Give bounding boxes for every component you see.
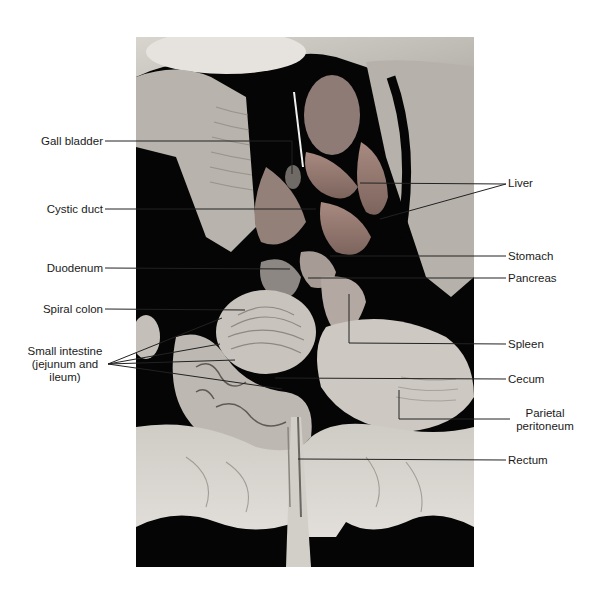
label-parietal-peritoneum-line1: Parietal: [505, 407, 585, 420]
label-small-intestine-line1: Small intestine: [22, 345, 108, 358]
label-spleen: Spleen: [508, 338, 544, 351]
label-small-intestine-line2: (jejunum and: [22, 358, 108, 371]
label-cecum: Cecum: [508, 373, 544, 386]
label-stomach: Stomach: [508, 250, 553, 263]
label-gall-bladder: Gall bladder: [0, 135, 103, 148]
label-parietal-peritoneum: Parietal peritoneum: [505, 407, 585, 433]
label-parietal-peritoneum-line2: peritoneum: [505, 420, 585, 433]
label-spiral-colon: Spiral colon: [0, 303, 103, 316]
dissection-photo: [136, 37, 474, 567]
label-liver: Liver: [508, 177, 533, 190]
label-pancreas: Pancreas: [508, 272, 557, 285]
anatomy-figure: Gall bladder Cystic duct Duodenum Spiral…: [0, 0, 594, 593]
dissection-illustration: [136, 37, 474, 567]
label-cystic-duct: Cystic duct: [0, 203, 103, 216]
label-rectum: Rectum: [508, 454, 548, 467]
label-small-intestine-line3: ileum): [22, 371, 108, 384]
label-duodenum: Duodenum: [0, 262, 103, 275]
label-small-intestine: Small intestine (jejunum and ileum): [22, 345, 108, 384]
